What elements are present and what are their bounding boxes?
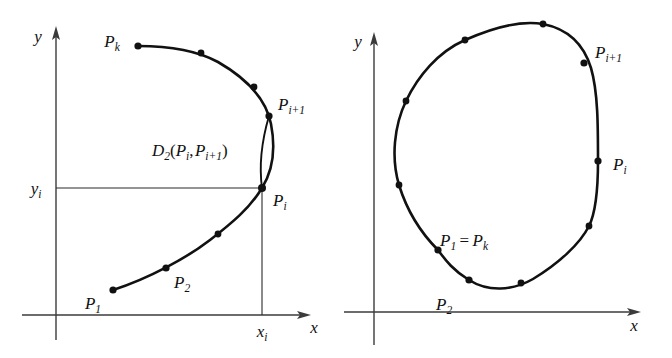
distance-label: D2(Pi, Pi+1) — [151, 141, 228, 162]
label-pi: Pi — [272, 191, 287, 212]
label-pk: Pk — [103, 32, 120, 53]
point-p2 — [465, 276, 472, 283]
point-a — [198, 50, 205, 57]
point-p1 — [109, 286, 116, 293]
x-tick-label-xi: xi — [256, 322, 268, 343]
point-mid-left — [396, 182, 403, 189]
x-axis-group: x — [344, 308, 641, 335]
x-axis-group: x — [22, 311, 318, 337]
closure-label: P1 = Pk — [439, 231, 489, 252]
open-curve-panel: y x yi xi D — [0, 0, 336, 358]
x-axis-label: x — [309, 318, 318, 337]
label-pi-plus-1: Pi+1 — [594, 43, 622, 64]
open-curve-svg: y x yi xi D — [0, 0, 336, 358]
label-p2: P2 — [435, 295, 452, 316]
figure-root: y x yi xi D — [0, 0, 672, 358]
y-axis-label: y — [32, 27, 42, 46]
point-pk — [134, 42, 141, 49]
y-tick-label-yi: yi — [29, 179, 42, 200]
sample-points-group — [396, 21, 602, 287]
point-pi1 — [580, 59, 587, 66]
label-pi: Pi — [612, 155, 627, 176]
point-b — [251, 84, 258, 91]
point-p2 — [162, 264, 169, 271]
point-pi — [258, 184, 266, 192]
point-top-left — [462, 37, 469, 44]
point-bottom-right — [518, 280, 525, 287]
label-p1: P1 — [84, 294, 101, 315]
x-axis-label: x — [629, 316, 638, 335]
sample-points-group — [109, 42, 272, 293]
y-axis-label: y — [352, 32, 362, 51]
point-pi — [594, 157, 601, 164]
closed-curve-svg: y x — [336, 0, 672, 358]
closed-curve-panel: y x — [336, 0, 672, 358]
open-curve-path — [113, 46, 273, 290]
point-top-right — [540, 21, 547, 28]
y-axis-group: y — [352, 32, 378, 345]
closed-curve-path — [395, 23, 598, 289]
label-pi-plus-1: Pi+1 — [277, 95, 305, 116]
point-pi1 — [265, 112, 272, 119]
point-upper-left — [403, 98, 410, 105]
point-lower-right — [586, 223, 593, 230]
label-p2: P2 — [173, 273, 190, 294]
point-c — [215, 231, 222, 238]
